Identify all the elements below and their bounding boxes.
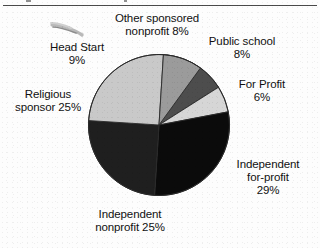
horizontal-rule (3, 5, 317, 6)
pie-chart-svg (86, 52, 232, 198)
pie-slice (155, 112, 230, 196)
pie-chart-page: Other sponsored nonprofit 8% Public scho… (0, 0, 320, 248)
slice-label-independent-nonprofit: Independent nonprofit 25% (60, 208, 200, 234)
clipped-text-remnant (124, 0, 127, 2)
pie-chart (86, 52, 232, 198)
clipped-text-remnant (26, 0, 31, 2)
pen-scribble-artifact (50, 22, 84, 38)
slice-label-public-school: Public school 8% (196, 35, 288, 61)
slice-label-for-profit: For Profit 6% (222, 78, 302, 104)
slice-label-head-start: Head Start 9% (36, 41, 118, 67)
slice-label-independent-for-profit: Independent for-profit 29% (224, 158, 312, 198)
slice-label-religious-sponsor: Religious sponsor 25% (2, 88, 94, 114)
pie-slice (89, 121, 159, 196)
